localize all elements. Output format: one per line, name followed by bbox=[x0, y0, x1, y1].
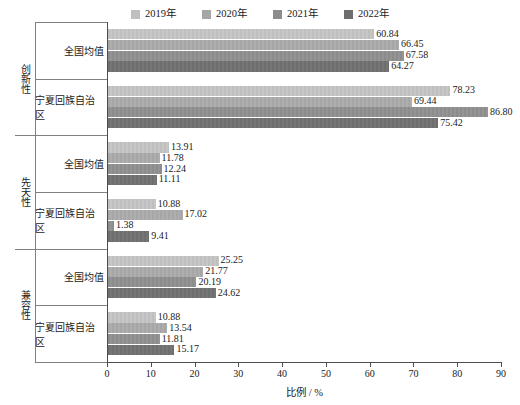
row-label-4: 全国均值 bbox=[35, 249, 107, 306]
legend-item-2019: 2019年 bbox=[131, 9, 176, 20]
x-tick-80 bbox=[457, 362, 458, 367]
bar-row0-series2 bbox=[108, 51, 404, 61]
bar-value-row1-series0: 78.23 bbox=[452, 85, 475, 95]
x-axis-title: 比例 / % bbox=[107, 384, 502, 399]
legend-swatch-2021 bbox=[273, 10, 282, 19]
row-label-0: 全国均值 bbox=[35, 22, 107, 79]
bar-row2-series3 bbox=[108, 175, 157, 185]
x-tick-30 bbox=[238, 362, 239, 367]
bar-value-row3-series0: 10.88 bbox=[158, 199, 181, 209]
bar-value-row2-series2: 12.24 bbox=[164, 164, 187, 174]
x-tick-label-40: 40 bbox=[277, 368, 287, 379]
bar-value-row2-series0: 13.91 bbox=[171, 142, 194, 152]
bar-value-row0-series1: 66.45 bbox=[401, 39, 424, 49]
bar-row0-series0 bbox=[108, 29, 374, 39]
bar-row2-series2 bbox=[108, 164, 162, 174]
bar-row1-series2 bbox=[108, 107, 488, 117]
chart-legend: 2019年 2020年 2021年 2022年 bbox=[0, 4, 520, 24]
legend-swatch-2019 bbox=[131, 10, 140, 19]
group-label-0: 创新性 bbox=[18, 22, 32, 135]
bar-value-row3-series2: 1.38 bbox=[116, 220, 134, 230]
bar-value-row2-series3: 11.11 bbox=[159, 174, 181, 184]
bar-value-row5-series0: 10.88 bbox=[158, 312, 181, 322]
x-tick-label-50: 50 bbox=[321, 368, 331, 379]
bar-value-row0-series2: 67.58 bbox=[406, 50, 429, 60]
bar-value-row4-series0: 25.25 bbox=[221, 255, 244, 265]
legend-swatch-2020 bbox=[202, 10, 211, 19]
legend-swatch-2022 bbox=[344, 10, 353, 19]
x-tick-0 bbox=[107, 362, 108, 367]
bar-row2-series1 bbox=[108, 153, 160, 163]
row-label-5: 宁夏回族自治区 bbox=[35, 305, 107, 362]
bar-value-row5-series2: 11.81 bbox=[162, 334, 184, 344]
bar-chart: 2019年 2020年 2021年 2022年 全国均值宁夏回族自治区全国均值宁… bbox=[0, 0, 520, 405]
bar-row5-series3 bbox=[108, 345, 174, 355]
x-tick-50 bbox=[326, 362, 327, 367]
bar-row0-series3 bbox=[108, 61, 389, 71]
legend-label-2021: 2021年 bbox=[287, 9, 318, 20]
bar-value-row4-series3: 24.62 bbox=[218, 288, 241, 298]
x-tick-40 bbox=[282, 362, 283, 367]
bar-row4-series2 bbox=[108, 277, 196, 287]
x-tick-label-90: 90 bbox=[496, 368, 506, 379]
bar-row1-series0 bbox=[108, 86, 450, 96]
bar-value-row1-series2: 86.80 bbox=[490, 107, 513, 117]
x-tick-label-20: 20 bbox=[190, 368, 200, 379]
bar-value-row3-series3: 9.41 bbox=[151, 231, 169, 241]
group-mid-separator-0 bbox=[35, 79, 107, 80]
bar-value-row4-series1: 21.77 bbox=[205, 266, 228, 276]
group-mid-separator-2 bbox=[35, 305, 107, 306]
x-tick-label-60: 60 bbox=[365, 368, 375, 379]
bar-row3-series2 bbox=[108, 221, 114, 231]
x-axis-line bbox=[107, 362, 502, 363]
bar-value-row0-series3: 64.27 bbox=[391, 61, 414, 71]
bar-row4-series1 bbox=[108, 267, 203, 277]
bar-row5-series0 bbox=[108, 312, 156, 322]
x-tick-label-10: 10 bbox=[146, 368, 156, 379]
row-label-1: 宁夏回族自治区 bbox=[35, 79, 107, 136]
row-label-2: 全国均值 bbox=[35, 135, 107, 192]
legend-label-2020: 2020年 bbox=[216, 9, 247, 20]
bar-value-row2-series1: 11.78 bbox=[162, 153, 184, 163]
bar-value-row4-series2: 20.19 bbox=[198, 277, 221, 287]
x-tick-10 bbox=[151, 362, 152, 367]
bar-row3-series0 bbox=[108, 199, 156, 209]
bar-row5-series1 bbox=[108, 323, 167, 333]
legend-item-2021: 2021年 bbox=[273, 9, 318, 20]
bar-row3-series3 bbox=[108, 231, 149, 241]
x-tick-90 bbox=[501, 362, 502, 367]
x-tick-label-70: 70 bbox=[408, 368, 418, 379]
bar-value-row1-series1: 69.44 bbox=[414, 96, 437, 106]
legend-label-2022: 2022年 bbox=[358, 9, 389, 20]
x-tick-60 bbox=[370, 362, 371, 367]
legend-item-2020: 2020年 bbox=[202, 9, 247, 20]
bar-row1-series3 bbox=[108, 118, 438, 128]
bar-row0-series1 bbox=[108, 40, 399, 50]
bar-value-row3-series1: 17.02 bbox=[185, 209, 208, 219]
x-tick-20 bbox=[195, 362, 196, 367]
bar-row2-series0 bbox=[108, 142, 169, 152]
bar-value-row5-series1: 13.54 bbox=[169, 323, 192, 333]
bar-value-row5-series3: 15.17 bbox=[176, 344, 199, 354]
row-label-3: 宁夏回族自治区 bbox=[35, 192, 107, 249]
bar-value-row0-series0: 60.84 bbox=[376, 29, 399, 39]
x-tick-70 bbox=[413, 362, 414, 367]
x-tick-label-30: 30 bbox=[233, 368, 243, 379]
legend-item-2022: 2022年 bbox=[344, 9, 389, 20]
x-tick-label-80: 80 bbox=[452, 368, 462, 379]
legend-label-2019: 2019年 bbox=[145, 9, 176, 20]
bar-row4-series0 bbox=[108, 256, 219, 266]
group-label-1: 先天性 bbox=[18, 135, 32, 248]
group-mid-separator-1 bbox=[35, 192, 107, 193]
bar-row1-series1 bbox=[108, 97, 412, 107]
bar-value-row1-series3: 75.42 bbox=[440, 118, 463, 128]
x-tick-label-0: 0 bbox=[105, 368, 110, 379]
bar-row5-series2 bbox=[108, 334, 160, 344]
group-label-2: 兼容性 bbox=[18, 249, 32, 362]
bar-row4-series3 bbox=[108, 288, 216, 298]
